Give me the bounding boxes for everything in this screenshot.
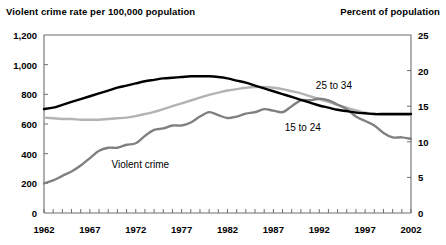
y-axis-right-tick-label: 15 xyxy=(418,101,429,112)
y-axis-right-tick-label: 10 xyxy=(418,136,429,147)
x-axis-tick-label: 1972 xyxy=(125,224,146,235)
y-axis-left-tick-label: 800 xyxy=(0,89,37,100)
series-label-15-to-24: 15 to 24 xyxy=(285,121,321,132)
y-axis-right-tick-label: 0 xyxy=(418,208,423,219)
y-axis-right-tick-label: 25 xyxy=(418,30,429,41)
y-axis-left-tick-label: 600 xyxy=(0,119,37,130)
y-axis-left-tick-label: 200 xyxy=(0,178,37,189)
x-axis-tick-label: 1967 xyxy=(79,224,100,235)
x-axis-tick-label: 1992 xyxy=(309,224,330,235)
y-axis-right-tick-label: 5 xyxy=(418,172,423,183)
plot-area xyxy=(0,0,446,245)
x-axis-tick-label: 1962 xyxy=(33,224,54,235)
x-axis-tick-label: 1977 xyxy=(171,224,192,235)
y-axis-left-tick-label: 400 xyxy=(0,148,37,159)
series-label-25-to-34: 25 to 34 xyxy=(316,79,352,90)
series-line-25-to-34 xyxy=(44,87,411,120)
x-axis-tick-label: 2002 xyxy=(400,224,421,235)
chart-container: Violent crime rate per 100,000 populatio… xyxy=(0,0,446,245)
x-axis-tick-label: 1997 xyxy=(355,224,376,235)
y-axis-left-tick-label: 1,200 xyxy=(0,30,37,41)
series-line-15-to-24 xyxy=(44,76,411,114)
y-axis-left-tick-label: 1,000 xyxy=(0,59,37,70)
series-label-violent-crime: Violent crime xyxy=(112,159,170,170)
y-axis-left-tick-label: 0 xyxy=(0,208,37,219)
plot-frame xyxy=(44,35,411,213)
x-axis-tick-label: 1987 xyxy=(263,224,284,235)
x-axis-tick-label: 1982 xyxy=(217,224,238,235)
y-axis-right-tick-label: 20 xyxy=(418,65,429,76)
